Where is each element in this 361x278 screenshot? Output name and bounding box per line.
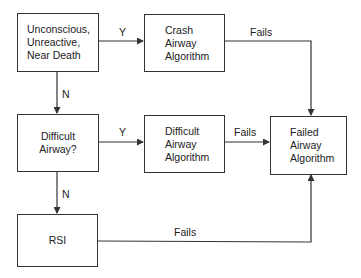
node-unconscious: Unconscious, Unreactive, Near Death <box>17 13 99 72</box>
node-crash-airway-algorithm: Crash Airway Algorithm <box>144 14 225 72</box>
node-rsi: RSI <box>17 214 98 267</box>
edge-crash-failed <box>225 41 311 115</box>
node-label: Difficult Airway Algorithm <box>165 125 209 164</box>
edge-label-n-rsi: N <box>62 188 70 200</box>
node-label: Failed Airway Algorithm <box>290 126 334 165</box>
edge-label-fails-rsi: Fails <box>174 226 196 238</box>
node-label: RSI <box>49 234 67 247</box>
edge-label-y-difficult-alg: Y <box>119 126 126 138</box>
node-difficult-airway-question: Difficult Airway? <box>17 114 99 172</box>
edge-label-y-crash: Y <box>119 26 126 38</box>
edge-label-fails-difficult-alg: Fails <box>234 126 256 138</box>
edge-rsi-failed <box>97 175 311 242</box>
edge-label-n-difficult: N <box>62 88 70 100</box>
node-failed-airway-algorithm: Failed Airway Algorithm <box>270 116 347 175</box>
node-label: Crash Airway Algorithm <box>165 24 209 63</box>
node-label: Unconscious, Unreactive, Near Death <box>27 23 90 62</box>
edge-label-fails-crash: Fails <box>250 26 272 38</box>
node-label: Difficult Airway? <box>39 130 76 156</box>
node-difficult-airway-algorithm: Difficult Airway Algorithm <box>144 115 225 173</box>
